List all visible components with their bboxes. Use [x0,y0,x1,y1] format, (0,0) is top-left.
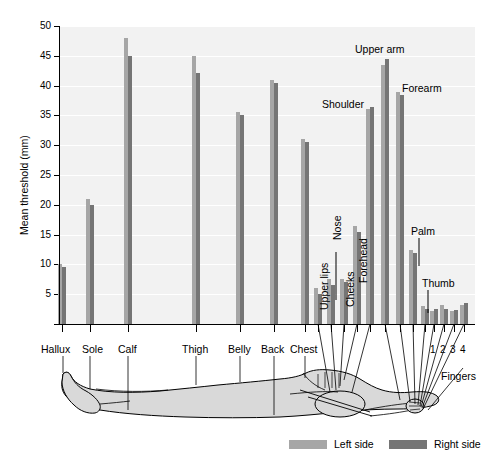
legend-swatch-left [289,440,327,449]
body-silhouette [62,370,439,418]
chart-figure: 5101520253035404550 Mean threshold (mm) … [0,0,493,464]
legend-label-left: Left side [334,438,374,450]
legend-label-right: Right side [434,438,481,450]
legend-swatch-right [389,440,427,449]
body-diagram [0,0,493,464]
x-axis-line [54,324,475,325]
y-axis-line [59,26,60,324]
